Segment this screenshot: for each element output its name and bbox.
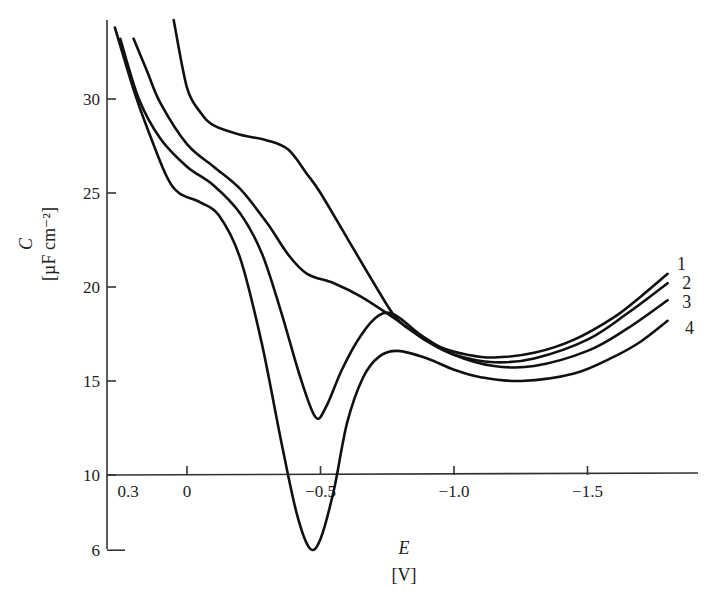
x-axis: 0.30−0.5−1.0−1.5 E [V] [107, 466, 698, 585]
x-axis-unit: [V] [392, 565, 417, 585]
curve-label-4: 4 [685, 318, 694, 338]
y-tick-label: 15 [83, 372, 100, 391]
x-tick-label: 0.3 [117, 482, 138, 501]
curves [115, 20, 668, 550]
curve-4 [115, 28, 668, 550]
y-axis-title: C [16, 237, 36, 250]
y-axis: 61015202530 C [µF cm⁻²] [16, 20, 125, 560]
y-tick-label: 20 [83, 278, 100, 297]
y-tick-label: 10 [83, 466, 100, 485]
curve-label-1: 1 [677, 254, 686, 274]
y-tick-label: 6 [92, 541, 101, 560]
x-tick-label: 0 [183, 482, 192, 501]
curve-3 [120, 39, 667, 419]
x-tick-label: −1.5 [572, 482, 603, 501]
x-axis-line [107, 473, 698, 475]
x-ticks: 0.30−0.5−1.0−1.5 [117, 466, 603, 501]
capacitance-potential-chart: 61015202530 C [µF cm⁻²] 0.30−0.5−1.0−1.5… [0, 0, 710, 602]
y-tick-label: 25 [83, 184, 100, 203]
curve-label-2: 2 [682, 273, 691, 293]
y-axis-unit: [µF cm⁻²] [39, 207, 59, 281]
curve-1 [174, 20, 668, 358]
x-axis-title: E [398, 538, 410, 558]
curve-labels: 1234 [677, 254, 694, 338]
x-tick-label: −1.0 [439, 482, 470, 501]
curve-2 [134, 39, 668, 363]
y-tick-label: 30 [83, 90, 100, 109]
curve-label-3: 3 [682, 292, 691, 312]
